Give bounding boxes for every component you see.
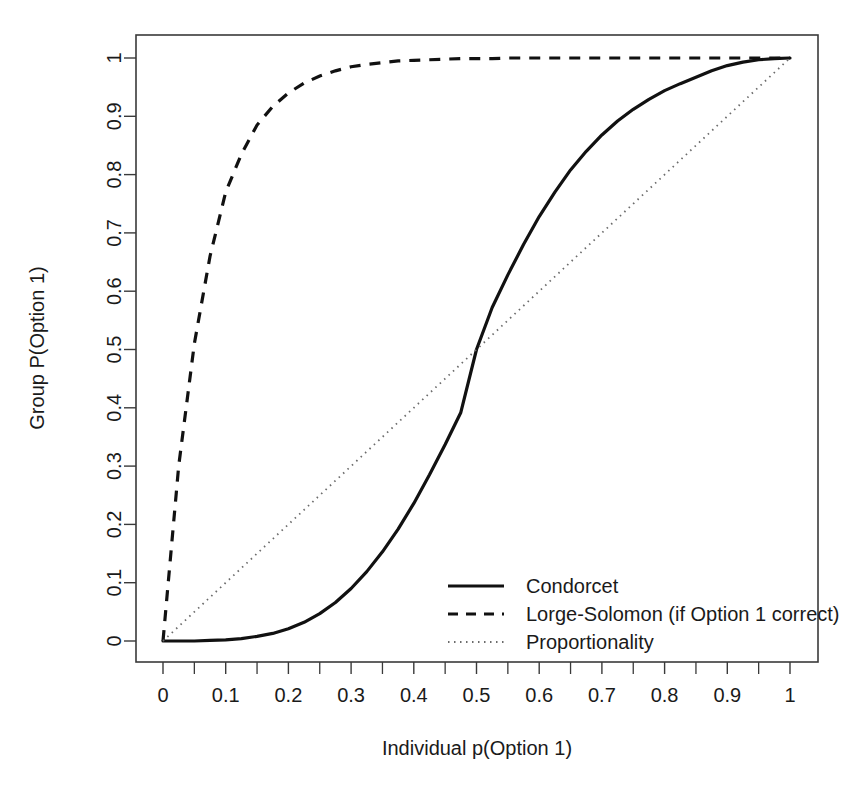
- y-tick-label: 0.6: [103, 277, 125, 305]
- x-tick-label: 0.2: [274, 684, 302, 706]
- x-tick-label: 1: [784, 684, 795, 706]
- x-tick-label: 0.7: [588, 684, 616, 706]
- x-tick-label: 0.4: [400, 684, 428, 706]
- y-axis-title: Group P(Option 1): [26, 266, 48, 429]
- x-tick-label: 0.1: [212, 684, 240, 706]
- y-tick-label: 0.4: [103, 394, 125, 422]
- y-tick-label: 0.3: [103, 452, 125, 480]
- x-tick-label: 0.5: [463, 684, 491, 706]
- y-tick-label: 0.7: [103, 219, 125, 247]
- y-tick-label: 0: [103, 635, 125, 646]
- chart-background: [0, 0, 856, 794]
- x-tick-label: 0.6: [525, 684, 553, 706]
- x-tick-label: 0.8: [651, 684, 679, 706]
- y-tick-label: 0.5: [103, 336, 125, 364]
- x-tick-label: 0: [157, 684, 168, 706]
- legend-label: Lorge-Solomon (if Option 1 correct): [526, 603, 839, 625]
- line-chart: 00.10.20.30.40.50.60.70.80.91 00.10.20.3…: [0, 0, 856, 794]
- y-tick-label: 0.8: [103, 161, 125, 189]
- chart-figure: 00.10.20.30.40.50.60.70.80.91 00.10.20.3…: [0, 0, 856, 794]
- y-tick-label: 0.9: [103, 102, 125, 130]
- y-tick-label: 1: [103, 52, 125, 63]
- x-tick-label: 0.9: [713, 684, 741, 706]
- y-tick-label: 0.1: [103, 569, 125, 597]
- legend-label: Condorcet: [526, 575, 619, 597]
- y-tick-label: 0.2: [103, 510, 125, 538]
- x-tick-label: 0.3: [337, 684, 365, 706]
- x-axis-title: Individual p(Option 1): [382, 737, 572, 759]
- legend-label: Proportionality: [526, 631, 654, 653]
